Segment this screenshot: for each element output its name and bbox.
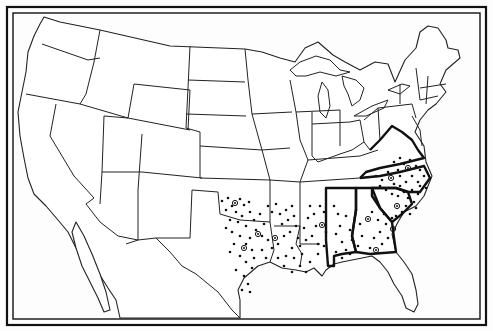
distribution-dot xyxy=(373,237,376,240)
distribution-dot xyxy=(243,204,246,207)
distribution-dot xyxy=(323,211,326,214)
distribution-dot xyxy=(275,203,278,206)
distribution-dot xyxy=(267,239,270,242)
city-ring-center xyxy=(375,249,377,251)
distribution-dot xyxy=(279,213,282,216)
distribution-dot xyxy=(411,189,414,192)
distribution-dot xyxy=(325,231,328,234)
city-ring-center xyxy=(243,247,245,249)
distribution-dot xyxy=(333,205,336,208)
distribution-dot xyxy=(399,175,402,178)
distribution-dot xyxy=(381,243,384,246)
distribution-dot xyxy=(253,257,256,260)
distribution-dot xyxy=(423,175,426,178)
city-ring-center xyxy=(407,167,409,169)
us-landmass xyxy=(18,17,460,318)
city-ring-center xyxy=(390,177,392,179)
distribution-dot xyxy=(369,247,372,250)
distribution-dot xyxy=(287,219,290,222)
distribution-dot xyxy=(229,251,232,254)
distribution-dot xyxy=(407,197,410,200)
distribution-dot xyxy=(241,215,244,218)
distribution-dot xyxy=(417,181,420,184)
distribution-dot xyxy=(291,247,294,250)
distribution-dot xyxy=(245,261,248,264)
city-ring-center xyxy=(257,233,259,235)
distribution-dot xyxy=(397,195,400,198)
distribution-dot xyxy=(247,283,250,286)
distribution-dot xyxy=(341,257,344,260)
distribution-dot xyxy=(235,269,238,272)
distribution-dot xyxy=(299,265,302,268)
distribution-dot xyxy=(311,235,314,238)
distribution-dot xyxy=(393,183,396,186)
distribution-dot xyxy=(277,257,280,260)
distribution-dot xyxy=(251,249,254,252)
map-container xyxy=(0,0,493,331)
distribution-dot xyxy=(323,245,326,248)
city-ring-center xyxy=(274,237,276,239)
distribution-dot xyxy=(391,217,394,220)
distribution-dot xyxy=(245,225,248,228)
distribution-dot xyxy=(271,211,274,214)
distribution-dot xyxy=(283,265,286,268)
distribution-dot xyxy=(271,247,274,250)
distribution-dot xyxy=(239,255,242,258)
distribution-dot xyxy=(297,237,300,240)
distribution-dot xyxy=(355,209,358,212)
distribution-dot xyxy=(339,225,342,228)
distribution-dot xyxy=(335,233,338,236)
distribution-dot xyxy=(399,185,402,188)
distribution-dot xyxy=(357,245,360,248)
distribution-dot xyxy=(393,161,396,164)
distribution-dot xyxy=(377,219,380,222)
distribution-dot xyxy=(409,159,412,162)
distribution-dot xyxy=(395,215,398,218)
distribution-dot xyxy=(299,245,302,248)
distribution-dot xyxy=(385,223,388,226)
distribution-dot xyxy=(381,179,384,182)
distribution-dot xyxy=(259,213,262,216)
distribution-dot xyxy=(405,181,408,184)
city-ring-center xyxy=(234,202,236,204)
distribution-dot xyxy=(285,255,288,258)
distribution-dot xyxy=(371,211,374,214)
distribution-dot xyxy=(303,227,306,230)
distribution-dot xyxy=(305,271,308,274)
distribution-dot xyxy=(351,239,354,242)
distribution-dot xyxy=(419,185,422,188)
distribution-dot xyxy=(403,163,406,166)
distribution-dot xyxy=(281,223,284,226)
distribution-dot xyxy=(231,231,234,234)
city-ring-center xyxy=(392,228,394,230)
distribution-dot xyxy=(379,231,382,234)
distribution-dot xyxy=(375,175,378,178)
distribution-dot xyxy=(261,235,264,238)
distribution-dot xyxy=(253,219,256,222)
distribution-dot xyxy=(419,169,422,172)
distribution-dot xyxy=(417,193,420,196)
distribution-dot xyxy=(415,165,418,168)
distribution-dot xyxy=(239,235,242,238)
distribution-dot xyxy=(289,231,292,234)
distribution-dot xyxy=(399,157,402,160)
distribution-dot xyxy=(341,241,344,244)
distribution-dot xyxy=(349,229,352,232)
distribution-dot xyxy=(309,261,312,264)
distribution-dot xyxy=(317,253,320,256)
distribution-dot xyxy=(309,205,312,208)
city-ring-center xyxy=(321,224,323,226)
distribution-dot xyxy=(361,235,364,238)
distribution-dot xyxy=(425,187,428,190)
distribution-dot xyxy=(225,227,228,230)
distribution-dot xyxy=(337,213,340,216)
distribution-dot xyxy=(263,223,266,226)
distribution-dot xyxy=(397,169,400,172)
distribution-dot xyxy=(301,253,304,256)
distribution-dot xyxy=(249,237,252,240)
distribution-dot xyxy=(319,205,322,208)
distribution-dot xyxy=(291,205,294,208)
distribution-dot xyxy=(415,207,418,210)
distribution-dot xyxy=(379,185,382,188)
distribution-dot xyxy=(293,215,296,218)
